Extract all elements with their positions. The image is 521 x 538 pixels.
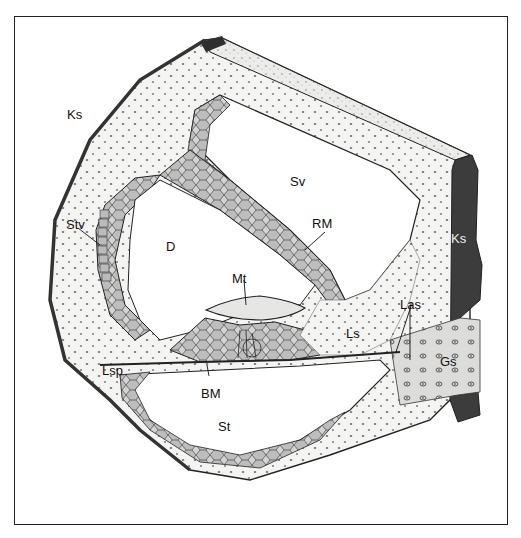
label-sv: Sv (290, 175, 305, 188)
label-bm: BM (201, 387, 221, 400)
label-ks-right: Ks (451, 232, 466, 245)
label-d: D (166, 240, 175, 253)
label-st: St (218, 420, 230, 433)
cochlea-illustration (0, 0, 521, 538)
label-lsp: Lsp (102, 364, 123, 377)
label-stv: Stv (66, 218, 85, 231)
label-ks-left: Ks (67, 108, 82, 121)
label-mt: Mt (232, 272, 246, 285)
label-rm: RM (312, 217, 332, 230)
label-las: Las (400, 298, 421, 311)
label-ls: Ls (346, 327, 360, 340)
label-gs: Gs (440, 355, 457, 368)
